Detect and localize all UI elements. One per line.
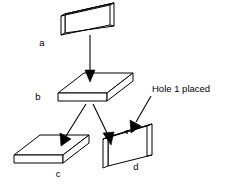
block-b-label: b bbox=[35, 91, 40, 102]
block-a-shape bbox=[61, 3, 114, 35]
block-d-end-face bbox=[103, 137, 108, 168]
block-a-label: a bbox=[39, 37, 45, 48]
block-a-front-face bbox=[65, 3, 114, 33]
block-c-label: c bbox=[56, 168, 61, 179]
block-c-shape bbox=[14, 135, 89, 163]
block-b-shape bbox=[58, 73, 133, 101]
hole-1-placed-annotation: Hole 1 placed bbox=[152, 83, 210, 94]
diagram-canvas: a b c d Hole 1 placed bbox=[0, 0, 231, 187]
arrow-b-to-d-line bbox=[93, 104, 107, 133]
block-b-front-face bbox=[58, 93, 107, 101]
block-c-front-face bbox=[14, 155, 63, 163]
block-a-end-face bbox=[61, 14, 65, 35]
block-sequence-diagram: a b c d Hole 1 placed bbox=[0, 0, 231, 187]
arrow-b-to-c-line bbox=[66, 104, 86, 136]
block-d-shape bbox=[103, 124, 152, 168]
arrow-note-to-d-line bbox=[136, 96, 151, 122]
block-d-label: d bbox=[133, 161, 138, 172]
